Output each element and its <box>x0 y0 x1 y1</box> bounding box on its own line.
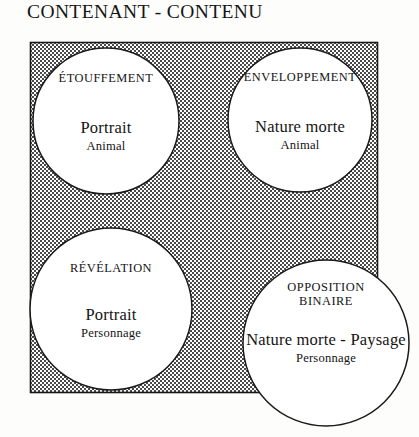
diagram-canvas <box>0 0 419 437</box>
circle-opposition-binaire <box>243 260 409 426</box>
circle-enveloppement <box>228 48 372 192</box>
circle-etouffement <box>33 48 179 194</box>
circle-revelation <box>30 228 192 390</box>
figure-contenant-contenu: CONTENANT - CONTENU ÉTOUFFEMENT Portrait… <box>0 0 419 437</box>
